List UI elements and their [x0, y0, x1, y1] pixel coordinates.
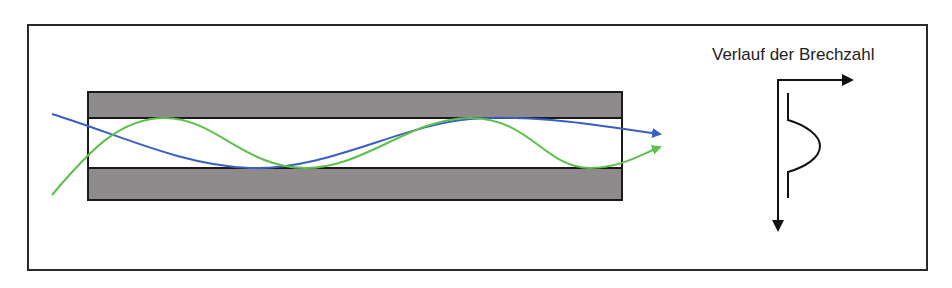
profile-title: Verlauf der Brechzahl	[712, 45, 875, 65]
fiber-diagram	[0, 0, 952, 288]
core	[88, 118, 622, 168]
index-profile-curve	[788, 93, 820, 198]
refractive-index-profile	[778, 79, 852, 230]
bottom-cladding	[88, 168, 622, 200]
fiber	[88, 92, 622, 200]
top-cladding	[88, 92, 622, 118]
